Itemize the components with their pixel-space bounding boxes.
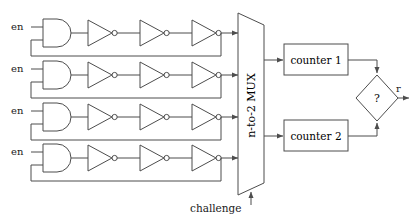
enable-label-row-1: en <box>11 21 23 32</box>
comparator-label-wrap: ? <box>356 86 398 110</box>
mux-shape <box>238 13 264 195</box>
counter-1-to-comparator <box>348 60 377 73</box>
counter-1-label: counter 1 <box>290 54 341 66</box>
counter-2-label-wrap: counter 2 <box>284 120 348 151</box>
oscillator-row-4 <box>31 144 238 181</box>
counter-1-label-wrap: counter 1 <box>284 44 348 75</box>
oscillator-row-3 <box>31 103 238 140</box>
enable-label-row-4: en <box>11 146 23 157</box>
enable-label-row-2: en <box>11 63 23 74</box>
response-label: r <box>396 83 401 94</box>
oscillator-row-2 <box>31 61 238 98</box>
oscillator-row-1 <box>31 19 238 56</box>
challenge-label: challenge <box>190 202 242 214</box>
diagram-canvas: en en en en n-to-2 MUX challenge counter… <box>0 0 409 224</box>
comparator-label: ? <box>374 92 380 105</box>
enable-label-row-3: en <box>11 105 23 116</box>
counter-2-label: counter 2 <box>290 130 341 142</box>
diagram-svg <box>0 0 409 224</box>
counter-2-to-comparator <box>348 123 377 136</box>
